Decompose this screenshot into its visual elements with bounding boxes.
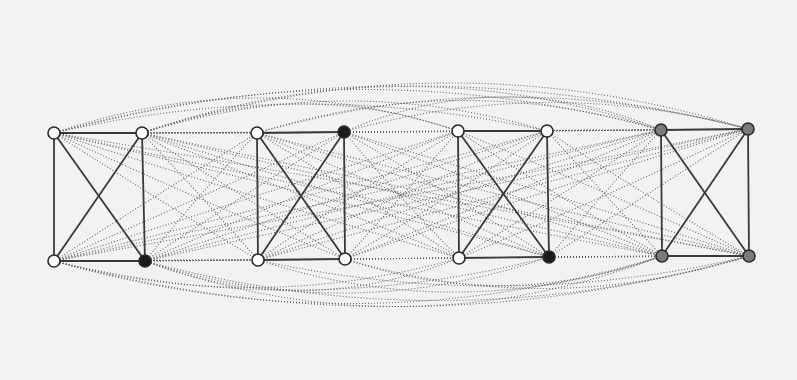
clique-edge xyxy=(547,131,549,257)
dotted-edge xyxy=(54,133,257,261)
graph-node-gray xyxy=(656,250,668,262)
graph-node-black xyxy=(139,255,151,267)
graph-node-black xyxy=(338,126,350,138)
graph-node-black xyxy=(543,251,555,263)
clique-edge xyxy=(344,132,345,259)
graph-node-gray xyxy=(742,123,754,135)
clique-edge xyxy=(257,133,258,260)
clique-edge xyxy=(748,129,749,256)
graph-node-white xyxy=(541,125,553,137)
graph-node-gray xyxy=(655,124,667,136)
graph-node-white xyxy=(136,127,148,139)
clique-edge xyxy=(458,131,459,258)
dotted-edge xyxy=(142,133,749,256)
dotted-edge xyxy=(458,131,662,256)
dotted-edge xyxy=(257,97,748,133)
graph-nodes xyxy=(48,123,755,267)
graph-diagram xyxy=(0,0,797,380)
dotted-edge xyxy=(54,89,661,133)
graph-node-white xyxy=(339,253,351,265)
dotted-edge xyxy=(145,129,748,261)
graph-node-white xyxy=(48,127,60,139)
dotted-edge xyxy=(145,256,662,307)
dotted-edge xyxy=(258,131,458,260)
dotted-edge xyxy=(54,104,547,133)
dotted-edge xyxy=(54,131,458,261)
clique-edge xyxy=(661,129,748,130)
dotted-edge xyxy=(142,133,662,256)
graph-node-gray xyxy=(743,250,755,262)
clique-edge xyxy=(459,257,549,258)
clique-edge xyxy=(661,130,662,256)
graph-node-white xyxy=(452,125,464,137)
dotted-edge xyxy=(142,104,458,133)
graph-node-white xyxy=(48,255,60,267)
graph-node-white xyxy=(453,252,465,264)
graph-node-white xyxy=(251,127,263,139)
dotted-edge xyxy=(142,86,661,133)
dotted-edge xyxy=(257,133,459,258)
graph-node-white xyxy=(252,254,264,266)
clique-edge xyxy=(258,259,345,260)
clique-edge xyxy=(257,132,344,133)
inter-group-dotted-edges xyxy=(54,83,749,307)
